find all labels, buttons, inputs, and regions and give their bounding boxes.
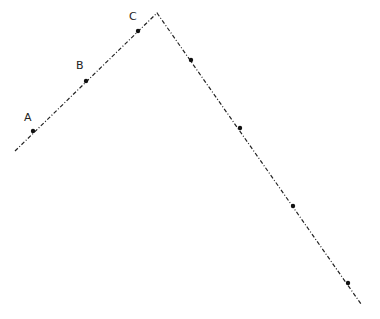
diagram-canvas: A B C (0, 0, 380, 319)
point-c (136, 29, 140, 33)
label-c: C (129, 10, 137, 23)
polyline-diagram: A B C (0, 0, 380, 319)
point-b (84, 79, 88, 83)
label-b: B (76, 59, 84, 72)
point-d (189, 58, 193, 62)
point-g (346, 281, 350, 285)
point-a (31, 129, 35, 133)
point-f (291, 204, 295, 208)
point-e (238, 126, 242, 130)
dash-dot-polyline (15, 13, 361, 304)
label-a: A (24, 111, 32, 124)
